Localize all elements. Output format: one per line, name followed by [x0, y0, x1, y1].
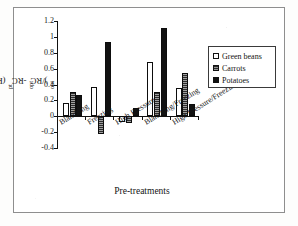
y-tick-label: 1	[50, 33, 54, 41]
y-tick-mark	[54, 85, 58, 86]
y-tick-mark	[54, 53, 58, 54]
y-tick-label: 1.2	[44, 17, 54, 25]
legend: Green beans Carrots Potatoes	[208, 46, 276, 88]
legend-swatch-green-beans-icon	[213, 53, 219, 59]
bar-green-beans-blanching-freezing	[147, 62, 153, 116]
legend-label-potatoes: Potatoes	[222, 76, 249, 85]
legend-item: Potatoes	[213, 74, 272, 86]
y-tick-label: 0.2	[44, 96, 54, 104]
y-tick-label: -0.2	[41, 128, 54, 136]
y-tick-label: -0.4	[41, 144, 54, 152]
y-tick-mark	[54, 21, 58, 22]
y-tick-label: 0.8	[44, 49, 54, 57]
figure-root: (RCpt-RCopt)/RCopt 1.210.80.60.40.20-0.2…	[0, 0, 298, 226]
y-tick-mark	[54, 132, 58, 133]
legend-swatch-potatoes-icon	[213, 77, 219, 83]
x-axis-title: Pre-treatments	[82, 186, 202, 196]
y-axis-title: (RCpt-RCopt)/RCopt	[18, 38, 30, 122]
legend-label-carrots: Carrots	[222, 64, 246, 73]
y-tick-mark	[54, 69, 58, 70]
y-tick-label: 0	[50, 112, 54, 120]
x-tick-mark	[198, 116, 199, 120]
legend-item: Carrots	[213, 62, 272, 74]
y-tick-label: 0.4	[44, 81, 54, 89]
plot-area: 1.210.80.60.40.20-0.2-0.4	[57, 21, 198, 148]
y-axis-title-minus: -RC	[10, 75, 27, 85]
y-tick-mark	[54, 37, 58, 38]
y-tick-mark	[54, 100, 58, 101]
legend-item: Green beans	[213, 50, 272, 62]
legend-swatch-carrots-icon	[213, 65, 219, 71]
y-tick-mark	[54, 148, 58, 149]
legend-label-green-beans: Green beans	[222, 52, 262, 61]
y-tick-label: 0.6	[44, 65, 54, 73]
